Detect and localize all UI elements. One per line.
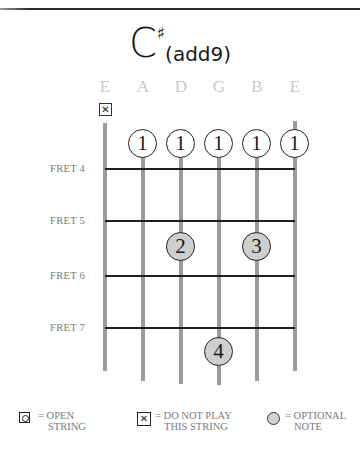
legend-open-line1: = OPEN bbox=[38, 410, 86, 421]
finger-marker: 1 bbox=[204, 129, 233, 158]
chord-extension: (add9) bbox=[165, 42, 231, 66]
fret-line-6 bbox=[105, 275, 295, 277]
string-high-e bbox=[293, 121, 297, 371]
string-label-a: A bbox=[133, 77, 153, 97]
finger-marker: 1 bbox=[280, 129, 309, 158]
chord-accidental: ♯ bbox=[157, 23, 165, 43]
fret-label-6: FRET 6 bbox=[50, 270, 106, 281]
legend-optional: = OPTIONAL NOTE bbox=[285, 410, 346, 432]
legend-mute-line2: THIS STRING bbox=[155, 421, 232, 432]
chord-title: C♯(add9) bbox=[0, 20, 360, 66]
finger-marker: 1 bbox=[166, 129, 195, 158]
do-not-play-icon: ✕ bbox=[137, 412, 151, 426]
legend-mute-line1: = DO NOT PLAY bbox=[155, 410, 232, 421]
string-label-high-e: E bbox=[285, 77, 305, 97]
string-label-g: G bbox=[209, 77, 229, 97]
fret-line-4 bbox=[105, 168, 295, 170]
legend-open-line2: STRING bbox=[38, 421, 86, 432]
string-low-e bbox=[103, 123, 107, 371]
optional-note-icon bbox=[267, 412, 280, 425]
open-string-icon bbox=[19, 412, 30, 423]
top-rule bbox=[0, 8, 360, 10]
fret-line-7 bbox=[105, 327, 295, 329]
fret-label-4: FRET 4 bbox=[50, 163, 106, 174]
fret-label-5: FRET 5 bbox=[50, 215, 106, 226]
fret-line-5 bbox=[105, 220, 295, 222]
mute-marker-icon: ✕ bbox=[99, 103, 112, 116]
legend-optional-line1: = OPTIONAL bbox=[285, 410, 346, 421]
string-label-low-e: E bbox=[95, 77, 115, 97]
chord-root: C bbox=[129, 20, 156, 66]
fret-label-7: FRET 7 bbox=[50, 322, 106, 333]
finger-marker: 1 bbox=[242, 129, 271, 158]
finger-marker: 2 bbox=[166, 232, 195, 261]
string-label-b: B bbox=[247, 77, 267, 97]
string-label-d: D bbox=[171, 77, 191, 97]
finger-marker: 4 bbox=[204, 337, 233, 366]
finger-marker: 1 bbox=[128, 129, 157, 158]
legend-mute: = DO NOT PLAY THIS STRING bbox=[155, 410, 232, 432]
legend-optional-line2: NOTE bbox=[285, 421, 346, 432]
finger-marker: 3 bbox=[242, 232, 271, 261]
legend-open: = OPEN STRING bbox=[38, 410, 86, 432]
